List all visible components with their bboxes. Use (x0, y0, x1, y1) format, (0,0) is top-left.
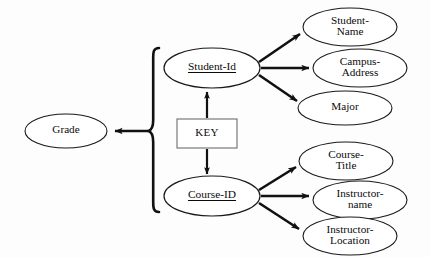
edge-course-id-to-instructor-location (259, 203, 299, 229)
composite-key-brace (148, 48, 159, 212)
node-major (298, 91, 392, 125)
node-course-title (299, 142, 393, 180)
node-student-name (303, 8, 397, 46)
node-student-id (164, 48, 260, 88)
edge-course-id-to-course-title (259, 167, 296, 190)
key-box (177, 119, 237, 148)
edge-student-id-to-student-name (259, 34, 300, 62)
edges-student-id (259, 34, 309, 101)
diagram-graphics (0, 0, 430, 257)
node-instructor-name (313, 181, 407, 219)
node-course-id (164, 176, 260, 216)
node-campus-address (313, 49, 407, 87)
edge-student-id-to-major (259, 75, 297, 101)
edges-course-id (259, 167, 309, 229)
node-grade (25, 114, 107, 148)
diagram-canvas: Grade Student-Id Course-ID KEY Student- … (0, 0, 430, 257)
node-instructor-location (303, 217, 397, 255)
